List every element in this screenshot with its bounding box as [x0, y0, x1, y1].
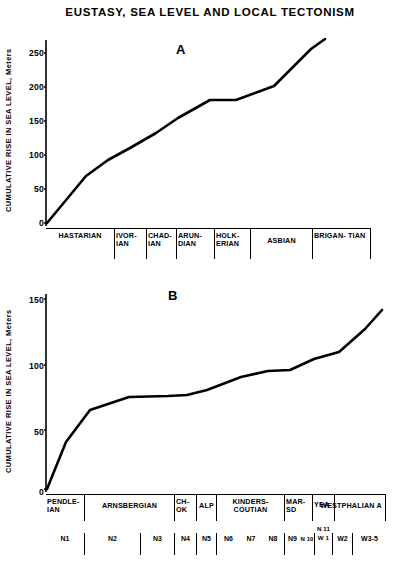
panel-a-stage-asbian[interactable]: ASBIAN: [250, 229, 312, 259]
panel-a-stage-arundian-label: ARUN- DIAN: [177, 232, 214, 249]
panel-b-stage-kinderscoutian[interactable]: KINDERS- COUTIAN: [216, 495, 284, 521]
panel-a-ytick-250: 250: [18, 48, 44, 58]
panel-b-stage-alp-label: ALP: [197, 502, 216, 510]
panel-a-stage-brigantian-label: BRIGAN- TIAN: [313, 232, 370, 240]
panel-b-zone-n7-label: N7: [240, 535, 262, 543]
panel-b-stage-marsd[interactable]: MAR- SD: [284, 495, 312, 521]
panel-b-stage-chok[interactable]: CH- OK: [174, 495, 196, 521]
panel-a-stage-ivorian[interactable]: IVOR- IAN: [114, 229, 146, 259]
panel-a-stage-holkerian-label: HOLK- ERIAN: [215, 232, 250, 249]
panel-b-zone-n4[interactable]: N4: [174, 533, 196, 555]
panel-b-zone-row: N1 N2 N3 N4 N5 N6 N7 N8 N9 N 10 N 11: [46, 533, 386, 555]
panel-b-stage-westphalian-a-label: WESTPHALIAN A: [317, 502, 385, 510]
panel-b-zone-w2-label: W2: [333, 535, 352, 543]
panel-b-zone-w3-5-label: W3-5: [353, 535, 386, 543]
panel-a-stage-hastarian[interactable]: HASTARIAN: [46, 229, 114, 259]
panel-a-ytick-200: 200: [18, 82, 44, 92]
panel-b-zone-w3-5[interactable]: W3-5: [352, 533, 386, 555]
panel-b-zone-n11-label: N 11: [315, 525, 332, 533]
panel-b-stage-chok-label: CH- OK: [175, 498, 196, 515]
panel-b-data-line: [47, 310, 382, 489]
panel-b-zone-n8[interactable]: N8: [262, 533, 284, 555]
panel-a-y-axis-label: CUMULATIVE RISE IN SEA LEVEL, Meters: [4, 24, 13, 236]
panel-b-stage-pendleian-label: PENDLE- IAN: [46, 498, 84, 515]
panel-b-ytick-50: 50: [18, 427, 44, 437]
panel-b-zone-n10-label: N 10: [300, 536, 314, 544]
panel-a-ytick-0: 0: [18, 218, 44, 228]
panel-b-zone-w1-label: W 1: [315, 534, 332, 542]
panel-b-y-axis-label: CUMULATIVE RISE IN SEA LEVEL, Meters: [4, 288, 13, 494]
panel-a-data-line: [47, 39, 325, 223]
panel-b-stage-arnsbergian[interactable]: ARNSBERGIAN: [84, 495, 174, 521]
panel-b-zone-n8-label: N8: [262, 535, 284, 543]
panel-a-stage-hastarian-label: HASTARIAN: [46, 232, 114, 240]
panel-b-zone-n11[interactable]: N 11 W 1: [314, 533, 332, 555]
panel-a-stage-arundian[interactable]: ARUN- DIAN: [176, 229, 214, 259]
panel-b-zone-n3[interactable]: N3: [140, 533, 174, 555]
panel-b-zone-n7[interactable]: N7: [240, 533, 262, 555]
panel-a-stage-row: HASTARIAN IVOR- IAN CHAD- IAN ARUN- DIAN…: [46, 228, 371, 259]
panel-b-zone-n10[interactable]: N 10: [300, 533, 314, 555]
panel-b-stage-kinderscoutian-label: KINDERS- COUTIAN: [217, 498, 284, 515]
panel-b-zone-n1-label: N1: [46, 535, 84, 543]
panel-b-stage-pendleian[interactable]: PENDLE- IAN: [46, 495, 84, 521]
panel-a-stage-chadian[interactable]: CHAD- IAN: [146, 229, 176, 259]
panel-a-stage-chadian-label: CHAD- IAN: [147, 232, 176, 249]
panel-a-ytick-50: 50: [18, 184, 44, 194]
panel-b-zone-n1[interactable]: N1: [46, 533, 84, 555]
panel-b-stage-arnsbergian-label: ARNSBERGIAN: [85, 502, 174, 510]
panel-a-ytick-150: 150: [18, 116, 44, 126]
panel-a-ytick-100: 100: [18, 150, 44, 160]
panel-a-stage-asbian-label: ASBIAN: [251, 237, 312, 245]
panel-b-zone-n6-label: N6: [217, 535, 240, 543]
panel-b-zone-n6[interactable]: N6: [216, 533, 240, 555]
panel-b-ytick-150: 150: [18, 295, 44, 305]
panel-b-ytick-0: 0: [18, 487, 44, 497]
panel-b-plot: [44, 290, 384, 495]
panel-b-zone-n9-label: N9: [285, 535, 300, 543]
panel-b-zone-n9[interactable]: N9: [284, 533, 300, 555]
panel-b-zone-n3-label: N3: [141, 535, 174, 543]
figure-title: EUSTASY, SEA LEVEL AND LOCAL TECTONISM: [0, 6, 420, 18]
panel-a-stage-holkerian[interactable]: HOLK- ERIAN: [214, 229, 250, 259]
panel-b-stage-row: PENDLE- IAN ARNSBERGIAN CH- OK ALP KINDE…: [46, 494, 386, 521]
panel-b-ytick-100: 100: [18, 361, 44, 371]
panel-b-stage-westphalian-a[interactable]: WESTPHALIAN A: [334, 495, 386, 521]
panel-b-zone-n2[interactable]: N2: [84, 533, 140, 555]
panel-b-zone-n5[interactable]: N5: [196, 533, 216, 555]
panel-a-plot: [44, 36, 374, 236]
panel-b-zone-n4-label: N4: [175, 535, 196, 543]
panel-b-zone-n5-label: N5: [197, 535, 216, 543]
panel-b-zone-w2[interactable]: W2: [332, 533, 352, 555]
figure-eustasy-sea-level: EUSTASY, SEA LEVEL AND LOCAL TECTONISM A…: [0, 0, 420, 564]
panel-b-stage-alp[interactable]: ALP: [196, 495, 216, 521]
panel-b-stage-marsd-label: MAR- SD: [285, 498, 312, 515]
panel-a-stage-brigantian[interactable]: BRIGAN- TIAN: [312, 229, 371, 259]
panel-a-stage-ivorian-label: IVOR- IAN: [115, 232, 146, 249]
panel-b-zone-n2-label: N2: [85, 535, 140, 543]
